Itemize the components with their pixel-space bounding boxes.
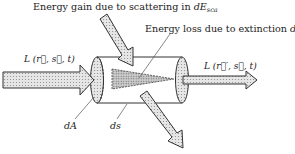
scattering-gain-label: Energy gain due to scattering in dEsca xyxy=(33,2,218,14)
scattering-gain-subscript: sca xyxy=(207,6,218,14)
scattering-gain-text: Energy gain due to scattering in xyxy=(33,1,194,12)
area-element-label: dA xyxy=(64,121,77,131)
scattering-gain-symbol: dE xyxy=(194,1,207,12)
dA-leader-line xyxy=(75,97,94,119)
extinction-loss-label: Energy loss due to extinction dEext xyxy=(145,24,295,36)
extinction-leader-line xyxy=(139,34,170,78)
incoming-radiance-arrow xyxy=(3,65,94,95)
outgoing-radiance-arrow xyxy=(183,71,257,89)
incoming-radiance-label: L (r⃗, s⃗, t) xyxy=(24,55,75,64)
ds-leader-line xyxy=(117,104,127,119)
outgoing-radiance-label: L (r⃗′, s⃗, t) xyxy=(204,62,257,71)
extinction-loss-symbol: dE xyxy=(290,23,295,34)
extinction-loss-text: Energy loss due to extinction xyxy=(145,23,290,34)
path-element-label: ds xyxy=(110,121,121,131)
scattering-loss-arrow xyxy=(140,91,183,148)
scattering-gain-arrow xyxy=(100,14,133,66)
radiative-transfer-diagram: Energy gain due to scattering in dEsca E… xyxy=(0,0,295,154)
